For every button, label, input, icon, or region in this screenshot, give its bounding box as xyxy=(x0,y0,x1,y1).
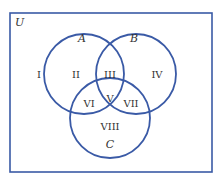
region-labels: IIIIIIIVVVIVIIVIII xyxy=(37,69,163,132)
region-label-ii: II xyxy=(72,69,80,80)
venn-diagram: U ABC IIIIIIIVVVIVIIVIII xyxy=(0,0,220,181)
region-label-i: I xyxy=(37,69,41,80)
set-label-b: B xyxy=(129,32,138,45)
region-label-vi: VI xyxy=(82,98,94,109)
universe-label: U xyxy=(15,16,25,29)
set-label-a: A xyxy=(77,32,86,45)
region-label-iii: III xyxy=(104,69,116,80)
set-label-c: C xyxy=(106,138,115,151)
region-label-v: V xyxy=(105,93,114,104)
region-label-vii: VII xyxy=(122,98,138,109)
region-label-iv: IV xyxy=(151,69,163,80)
set-labels: ABC xyxy=(77,32,138,151)
region-label-viii: VIII xyxy=(99,121,119,132)
